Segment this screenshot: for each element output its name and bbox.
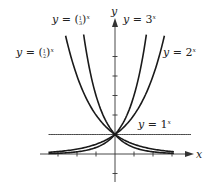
x-axis-arrow-icon bbox=[185, 151, 194, 157]
label-one-third: y = (13)x bbox=[51, 13, 90, 26]
axes bbox=[40, 18, 194, 182]
label-one-half: y = (12)x bbox=[15, 46, 54, 59]
curve-y-3-x bbox=[49, 35, 147, 154]
y-axis-label: y bbox=[110, 5, 118, 18]
label-three: y = 3x bbox=[122, 13, 156, 26]
label-two: y = 2x bbox=[162, 46, 196, 59]
y-axis-arrow-icon bbox=[112, 18, 118, 27]
label-one: y = 1x bbox=[137, 118, 171, 131]
exponential-chart: y = (13)x y = (12)x y = 3x y = 2x y = 1x… bbox=[0, 0, 207, 191]
x-axis-label: x bbox=[196, 148, 203, 161]
